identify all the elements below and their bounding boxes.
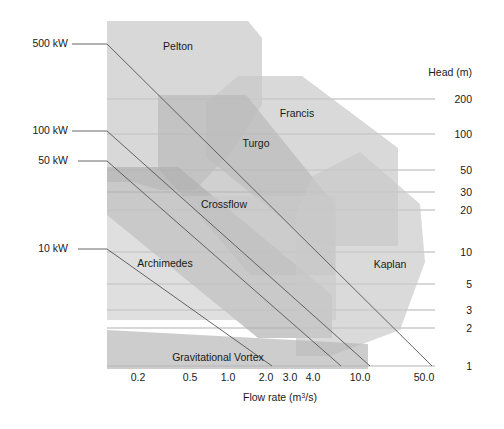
region-label-crossflow: Crossflow xyxy=(201,198,248,210)
power-label-500-kw: 500 kW xyxy=(32,37,68,49)
chart-svg: 200100503020105321 0.20.51.02.03.04.010.… xyxy=(0,0,504,429)
power-label-10-kw: 10 kW xyxy=(38,242,68,254)
y-tick-label-10: 10 xyxy=(460,246,472,258)
y-tick-label-2: 2 xyxy=(466,322,472,334)
y-tick-label-30: 30 xyxy=(460,186,472,198)
y-tick-label-5: 5 xyxy=(466,278,472,290)
x-tick-label-3-0: 3.0 xyxy=(283,371,298,383)
region-label-gravitational-vortex: Gravitational Vortex xyxy=(172,351,264,363)
x-tick-label-0-5: 0.5 xyxy=(183,371,198,383)
y-tick-label-200: 200 xyxy=(454,93,472,105)
x-tick-label-4-0: 4.0 xyxy=(306,371,321,383)
x-tick-label-0-2: 0.2 xyxy=(131,371,146,383)
x-axis-title: Flow rate (m3/s) xyxy=(243,391,317,404)
region-label-kaplan: Kaplan xyxy=(374,258,407,270)
y-tick-label-100: 100 xyxy=(454,128,472,140)
region-label-francis: Francis xyxy=(280,107,314,119)
power-label-100-kw: 100 kW xyxy=(32,124,68,136)
x-tick-label-10-0: 10.0 xyxy=(350,371,371,383)
power-label-50-kw: 50 kW xyxy=(38,154,68,166)
y-tick-label-1: 1 xyxy=(466,360,472,372)
x-tick-label-1-0: 1.0 xyxy=(221,371,236,383)
x-tick-label-2-0: 2.0 xyxy=(259,371,274,383)
region-label-pelton: Pelton xyxy=(163,40,193,52)
x-tick-label-50-0: 50.0 xyxy=(414,371,435,383)
y-tick-label-50: 50 xyxy=(460,164,472,176)
region-label-turgo: Turgo xyxy=(242,137,269,149)
y-tick-label-3: 3 xyxy=(466,304,472,316)
y-tick-label-20: 20 xyxy=(460,204,472,216)
y-axis-title: Head (m) xyxy=(428,66,472,78)
region-label-archimedes: Archimedes xyxy=(137,257,192,269)
turbine-selection-chart: 200100503020105321 0.20.51.02.03.04.010.… xyxy=(0,0,504,429)
